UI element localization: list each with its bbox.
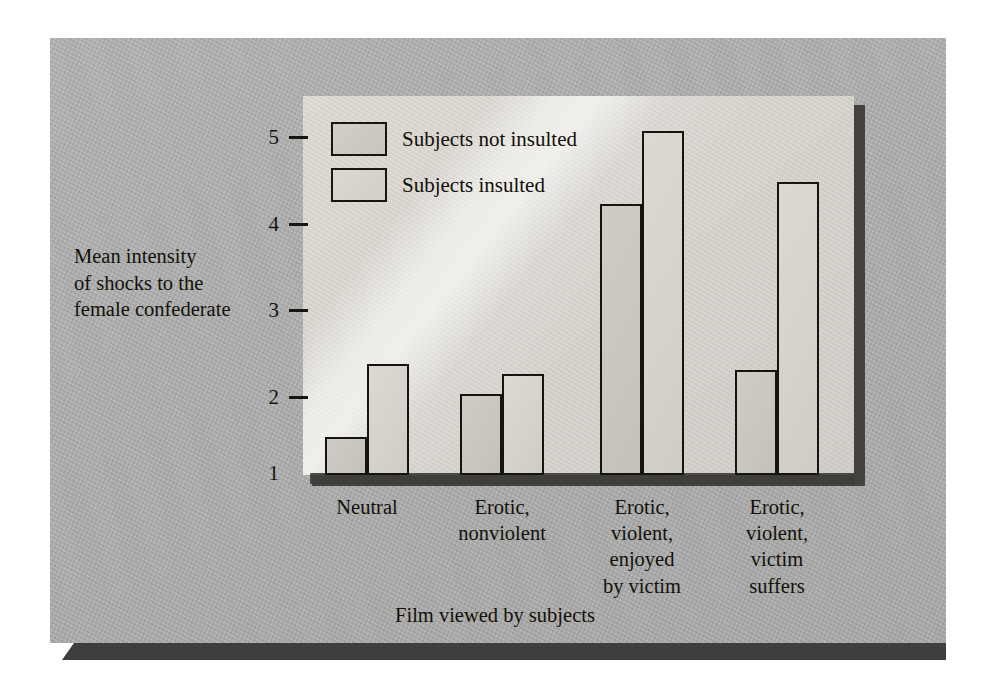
ytick-dash-3 bbox=[289, 309, 308, 312]
bar-erotic-violent-suffers-insulted bbox=[777, 182, 819, 475]
category-label-erotic-violent-suffers: Erotic, violent, victim suffers bbox=[702, 494, 852, 599]
category-label-erotic-violent-suffers-line-3: victim bbox=[702, 546, 852, 572]
legend-item-insulted: Subjects insulted bbox=[331, 168, 545, 202]
y-axis-title: Mean intensity of shocks to the female c… bbox=[74, 243, 289, 323]
legend-item-not-insulted: Subjects not insulted bbox=[331, 122, 577, 156]
card-drop-shadow bbox=[62, 643, 946, 660]
category-label-erotic-violent-enjoyed-line-4: by victim bbox=[567, 573, 717, 599]
ytick-label-1: 1 bbox=[253, 461, 279, 486]
x-axis-title: Film viewed by subjects bbox=[0, 604, 990, 627]
category-label-erotic-nonviolent: Erotic, nonviolent bbox=[427, 494, 577, 546]
category-label-erotic-violent-enjoyed: Erotic, violent, enjoyed by victim bbox=[567, 494, 717, 599]
category-label-neutral-line-1: Neutral bbox=[292, 494, 442, 520]
legend-label-not-insulted: Subjects not insulted bbox=[402, 127, 577, 152]
bar-erotic-violent-suffers-not-insulted bbox=[735, 370, 777, 475]
ytick-dash-2 bbox=[289, 396, 308, 399]
y-axis-title-line-3: female confederate bbox=[74, 296, 289, 323]
legend-swatch-insulted bbox=[331, 168, 387, 202]
legend-label-insulted: Subjects insulted bbox=[402, 173, 545, 198]
bar-neutral-not-insulted bbox=[325, 437, 367, 475]
category-label-neutral: Neutral bbox=[292, 494, 442, 520]
bar-erotic-nonviolent-not-insulted bbox=[460, 394, 502, 475]
ytick-label-4: 4 bbox=[253, 212, 279, 237]
y-axis-title-line-1: Mean intensity bbox=[74, 243, 289, 270]
category-label-erotic-nonviolent-line-2: nonviolent bbox=[427, 520, 577, 546]
ytick-dash-4 bbox=[289, 223, 308, 226]
category-label-erotic-violent-enjoyed-line-1: Erotic, bbox=[567, 494, 717, 520]
bar-erotic-violent-enjoyed-not-insulted bbox=[600, 204, 642, 475]
category-label-erotic-violent-enjoyed-line-2: violent, bbox=[567, 520, 717, 546]
legend-swatch-not-insulted bbox=[331, 122, 387, 156]
y-axis-title-line-2: of shocks to the bbox=[74, 270, 289, 297]
category-label-erotic-nonviolent-line-1: Erotic, bbox=[427, 494, 577, 520]
ytick-label-5: 5 bbox=[253, 125, 279, 150]
bar-erotic-violent-enjoyed-insulted bbox=[642, 131, 684, 475]
bar-erotic-nonviolent-insulted bbox=[502, 374, 544, 475]
category-label-erotic-violent-suffers-line-2: violent, bbox=[702, 520, 852, 546]
category-label-erotic-violent-suffers-line-1: Erotic, bbox=[702, 494, 852, 520]
ytick-label-2: 2 bbox=[253, 385, 279, 410]
category-label-erotic-violent-suffers-line-4: suffers bbox=[702, 573, 852, 599]
bar-neutral-insulted bbox=[367, 364, 409, 475]
category-label-erotic-violent-enjoyed-line-3: enjoyed bbox=[567, 546, 717, 572]
ytick-dash-5 bbox=[289, 136, 308, 139]
